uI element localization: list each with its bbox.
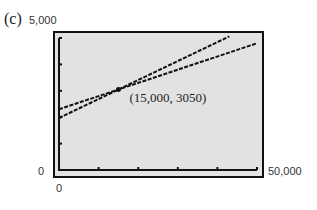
intersection-point bbox=[116, 87, 121, 92]
annotations: (15,000, 3050) bbox=[116, 87, 206, 106]
plot-area: (15,000, 3050) bbox=[0, 0, 317, 210]
intersection-label: (15,000, 3050) bbox=[129, 90, 206, 105]
